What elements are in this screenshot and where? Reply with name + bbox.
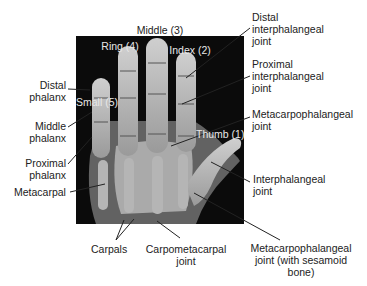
label-thumb: Thumb (1) [196,128,244,140]
label-metacarpophalangeal-joint: Metacarpophalangeal joint [252,108,353,132]
label-small-finger: Small (5) [76,96,118,108]
label-interphalangeal-joint: Interphalangeal joint [253,173,325,197]
hand-anatomy-diagram: Middle (3) Ring (4) Index (2) Small (5) … [0,0,367,286]
label-proximal-phalanx: Proximal phalanx [10,157,66,181]
label-distal-phalanx: Distal phalanx [14,79,66,103]
label-metacarpal: Metacarpal [14,186,66,198]
label-middle-phalanx: Middle phalanx [14,120,66,144]
label-ring-finger: Ring (4) [98,40,142,52]
label-index-finger: Index (2) [166,44,214,56]
label-proximal-interphalangeal-joint: Proximal interphalangeal joint [252,58,324,94]
label-thumb-metacarpophalangeal-joint: Metacarpophalangeal joint (with sesamoid… [236,242,366,278]
label-distal-interphalangeal-joint: Distal interphalangeal joint [252,11,324,47]
label-carpometacarpal-joint: Carpometacarpal joint [138,243,234,267]
label-middle-finger: Middle (3) [128,24,192,36]
label-carpals: Carpals [91,243,127,255]
